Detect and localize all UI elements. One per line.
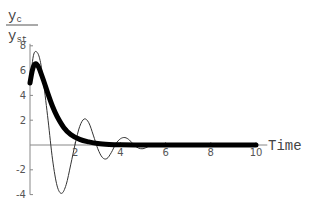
y-tick-label: 4 xyxy=(20,90,26,101)
y-tick-label: 2 xyxy=(20,115,26,126)
x-tick-label: 8 xyxy=(208,147,214,158)
y-tick-label: 8 xyxy=(20,40,26,51)
y-tick-label: 6 xyxy=(20,65,26,76)
x-tick-label: 4 xyxy=(117,147,123,158)
series-thin-solid xyxy=(30,51,256,193)
x-axis-title: Time xyxy=(268,138,302,154)
series-layer xyxy=(30,51,256,193)
y-tick-label: -4 xyxy=(16,189,26,200)
x-tick-label: 10 xyxy=(250,147,263,158)
series-thin-dashed xyxy=(30,64,256,145)
y-tick-label: -2 xyxy=(16,164,26,175)
series-thick-solid xyxy=(30,64,256,145)
y-label-numerator: yc xyxy=(8,8,22,25)
line-chart: yc yst -4-22468246810 Time xyxy=(0,0,319,207)
axes: -4-22468246810 xyxy=(16,40,267,200)
x-tick-label: 6 xyxy=(162,147,168,158)
